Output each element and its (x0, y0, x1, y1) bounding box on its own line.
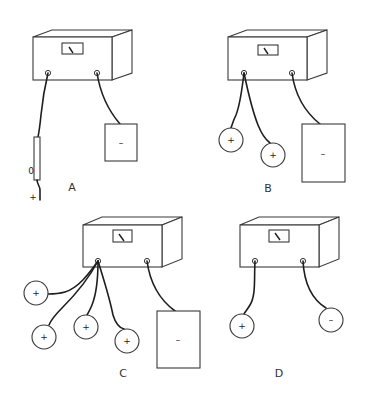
wire-left (38, 73, 48, 137)
meter-box (83, 217, 182, 267)
plate-sign: – (176, 335, 181, 345)
diagram-canvas: 0 + – A + + – B (0, 0, 370, 399)
wire-left-4 (98, 261, 124, 329)
wire-left (244, 261, 255, 314)
plate-sign: – (321, 149, 326, 159)
meter-box-side (319, 217, 339, 267)
panel-d: + – D (230, 217, 343, 380)
wire-right (147, 261, 175, 311)
panel-label: A (68, 181, 76, 194)
meter-box (240, 217, 339, 267)
plate-sign: – (119, 138, 124, 148)
rod-lead (37, 180, 40, 200)
meter-dial-icon (269, 230, 289, 242)
panel-label: C (119, 367, 127, 380)
sphere-sign: + (123, 336, 131, 346)
sphere-sign: + (32, 288, 40, 298)
wire-right (292, 73, 320, 124)
panel-a: 0 + – A (28, 30, 137, 202)
meter-box-front (228, 37, 307, 80)
meter-box-side (162, 217, 182, 267)
panel-label: D (275, 367, 283, 380)
wire-right (97, 73, 120, 124)
meter-box-side (307, 30, 327, 80)
wire-left-2 (244, 73, 270, 143)
rod-sign: + (29, 192, 37, 202)
panel-c: + + + + – C (24, 217, 200, 380)
meter-dial-icon (113, 230, 132, 242)
meter-box-side (112, 30, 132, 80)
rod-clip-icon: 0 (28, 166, 34, 176)
sphere-sign: + (269, 150, 277, 160)
negative-sphere-sign: – (329, 315, 334, 325)
meter-box (228, 30, 327, 80)
sphere-sign: + (227, 135, 235, 145)
charged-rod (34, 137, 40, 180)
sphere-sign: + (40, 332, 48, 342)
wire-right (303, 261, 326, 308)
panel-b: + + – B (219, 30, 345, 195)
wire-left-1 (231, 73, 244, 128)
sphere-sign: + (238, 321, 246, 331)
sphere-sign: + (82, 322, 90, 332)
panel-label: B (264, 182, 272, 195)
